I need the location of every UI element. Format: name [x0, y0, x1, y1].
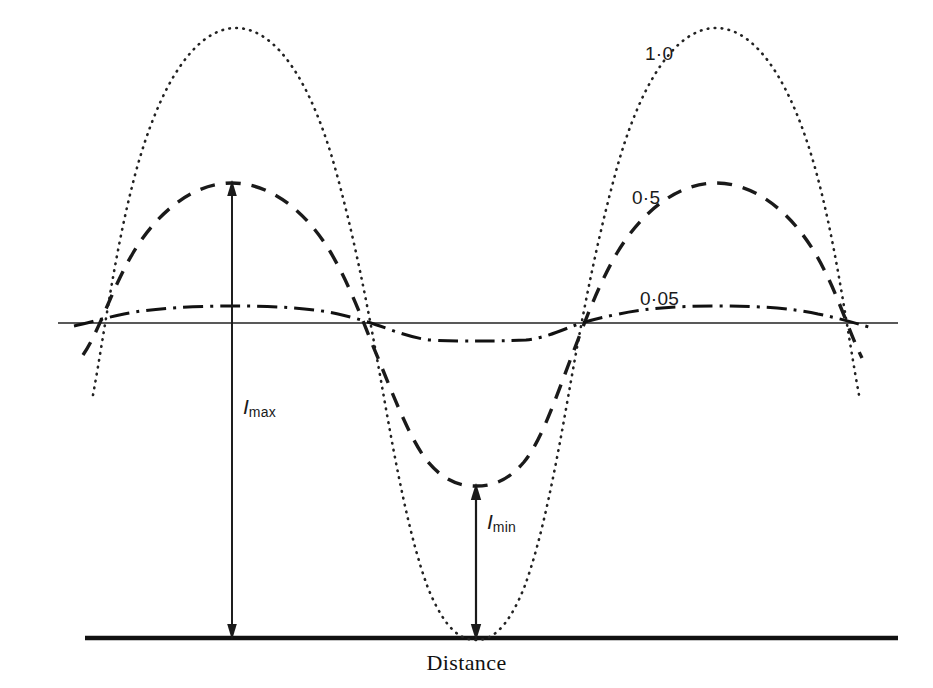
curve-label-contrast-05: 0·5: [632, 187, 660, 209]
luminance-contrast-figure: Luminance Distance 1·0 0·5 0·05 Imax Imi…: [0, 0, 933, 688]
curve-contrast-05: [83, 183, 862, 486]
x-axis-label: Distance: [0, 650, 933, 676]
curve-label-contrast-1: 1·0: [645, 43, 673, 65]
curve-label-contrast-005: 0·05: [640, 288, 679, 310]
imin-arrow: [471, 483, 481, 641]
imax-subscript: max: [249, 404, 276, 420]
imax-arrow: [227, 180, 237, 640]
imin-subscript: min: [493, 519, 516, 535]
plot-canvas: [0, 0, 933, 688]
imax-annotation-label: Imax: [243, 395, 276, 420]
imin-annotation-label: Imin: [487, 510, 516, 535]
